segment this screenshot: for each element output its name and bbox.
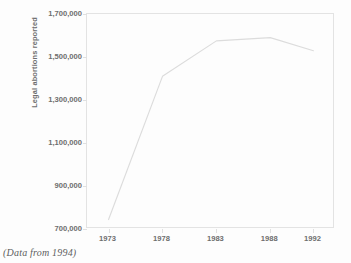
y-axis-title: Legal abortions reported — [30, 0, 39, 128]
x-tick-mark — [270, 229, 271, 233]
series-line-chart — [87, 14, 335, 229]
y-tick-label: 1,300,000 — [24, 95, 82, 104]
x-tick-mark — [162, 229, 163, 233]
y-tick-label: 1,500,000 — [24, 52, 82, 61]
data-source-caption: (Data from 1994) — [3, 247, 76, 258]
y-tick-label: 700,000 — [24, 224, 82, 233]
x-tick-label: 1973 — [88, 234, 128, 243]
plot-area — [87, 14, 333, 227]
y-tick-mark — [83, 143, 87, 144]
y-tick-mark — [83, 14, 87, 15]
x-tick-label: 1983 — [195, 234, 235, 243]
x-tick-mark — [109, 229, 110, 233]
y-tick-mark — [83, 186, 87, 187]
plot-frame — [86, 13, 334, 228]
x-tick-mark — [313, 229, 314, 233]
y-tick-mark — [83, 57, 87, 58]
chart-page: Legal abortions reported 700,000900,0001… — [0, 0, 351, 263]
x-tick-mark — [216, 229, 217, 233]
x-tick-label: 1992 — [292, 234, 332, 243]
x-tick-label: 1988 — [249, 234, 289, 243]
y-tick-label: 900,000 — [24, 181, 82, 190]
y-tick-label: 1,700,000 — [24, 9, 82, 18]
series-line-path — [109, 38, 314, 220]
x-tick-label: 1978 — [141, 234, 181, 243]
y-tick-label: 1,100,000 — [24, 138, 82, 147]
y-tick-mark — [83, 100, 87, 101]
y-tick-mark — [83, 229, 87, 230]
